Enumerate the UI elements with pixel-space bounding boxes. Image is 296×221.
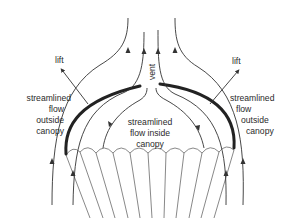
svg-text:streamlined: streamlined xyxy=(230,93,275,103)
svg-text:flow inside: flow inside xyxy=(130,128,170,138)
parachute-airflow-diagram: lift lift vent streamlined flow outside … xyxy=(0,0,296,221)
svg-text:outside: outside xyxy=(36,115,64,125)
svg-text:streamlined: streamlined xyxy=(128,117,173,127)
arrow-icon xyxy=(142,48,147,54)
svg-text:flow: flow xyxy=(236,104,252,114)
label-lift-right: lift xyxy=(232,56,241,66)
label-outside-right: streamlined flow outside canopy xyxy=(230,93,275,136)
label-outside-left: streamlined flow outside canopy xyxy=(27,93,72,136)
label-vent: vent xyxy=(147,63,157,80)
canopy-right-arc xyxy=(160,84,234,148)
arrow-icon xyxy=(241,158,246,164)
svg-text:canopy: canopy xyxy=(36,126,64,136)
label-inside: streamlined flow inside canopy xyxy=(128,117,173,149)
arrow-icon xyxy=(108,121,113,127)
svg-text:flow: flow xyxy=(49,104,65,114)
suspension-lines xyxy=(66,150,234,218)
outer-streamline-right xyxy=(175,18,243,205)
arrow-icon xyxy=(156,48,161,54)
svg-text:streamlined: streamlined xyxy=(27,93,72,103)
arrow-icon xyxy=(126,47,131,53)
svg-text:outside: outside xyxy=(241,115,269,125)
svg-text:canopy: canopy xyxy=(136,139,164,149)
svg-text:canopy: canopy xyxy=(246,126,274,136)
label-lift-left: lift xyxy=(55,55,64,65)
arrow-icon xyxy=(173,47,178,53)
